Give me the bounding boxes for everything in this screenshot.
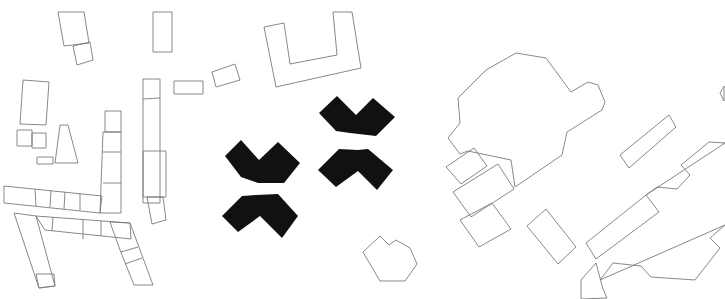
existing-building-south-u-bridge-div-1 — [52, 217, 53, 231]
existing-building-west-square-b — [32, 133, 46, 148]
existing-building-west-row-div-2 — [50, 190, 51, 207]
existing-building-south-u-right-div-1 — [121, 247, 138, 252]
existing-building-east-annex-b — [453, 164, 514, 217]
existing-building-west-trapezoid — [55, 125, 78, 163]
existing-building-west-square-a — [17, 130, 32, 146]
existing-building-central-column-top — [105, 111, 121, 132]
existing-building-west-small-bar — [37, 157, 53, 164]
existing-building-tall-column — [143, 79, 160, 203]
existing-building-hexagonal-pavilion — [363, 236, 417, 281]
existing-building-southeast-courtyard — [581, 263, 607, 299]
existing-building-nw-small-square — [73, 42, 93, 65]
existing-building-central-column — [100, 132, 121, 213]
existing-building-north-narrow-block — [153, 12, 172, 52]
existing-building-large-east-complex — [448, 53, 605, 187]
proposed-building-chevron-east-lower — [318, 149, 393, 190]
site-plan — [0, 0, 725, 299]
existing-building-u-shaped-building — [264, 12, 361, 87]
existing-building-south-u-bridge — [36, 216, 131, 239]
existing-building-nw-tilted-block — [58, 12, 89, 46]
existing-building-east-annex-c — [460, 203, 511, 247]
proposed-building-chevron-east-upper — [319, 96, 395, 136]
existing-building-south-u-right-arm — [110, 222, 153, 285]
existing-building-far-east-arc — [720, 86, 724, 101]
existing-building-east-diagonal-bar — [620, 115, 676, 168]
existing-building-tall-column-foot — [147, 197, 166, 224]
existing-building-west-row-div-3 — [64, 192, 65, 209]
proposed-building-chevron-west-upper — [225, 140, 300, 183]
existing-building-small-tilted-bar — [212, 64, 240, 87]
existing-building-tall-column-div — [143, 98, 160, 99]
proposed-buildings-layer — [222, 96, 395, 238]
existing-building-tall-column-wide — [143, 151, 166, 197]
existing-building-east-row-wall — [646, 142, 725, 195]
existing-building-west-row — [4, 186, 102, 213]
existing-building-south-u-left-arm — [14, 213, 55, 288]
existing-building-southeast-wall — [600, 225, 725, 280]
existing-building-small-bar-east — [174, 81, 203, 94]
proposed-building-chevron-west-lower — [222, 194, 298, 238]
existing-building-south-u-right-div-2 — [125, 258, 142, 264]
existing-building-east-row-building — [586, 195, 659, 259]
existing-building-west-block — [20, 80, 49, 125]
existing-building-east-free-block — [527, 209, 576, 264]
existing-building-west-row-div-1 — [35, 189, 36, 206]
